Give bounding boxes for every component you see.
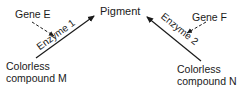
gene-f-label: Gene F	[192, 12, 227, 23]
compound-n-line2: compound N	[177, 76, 237, 87]
gene-e-label: Gene E	[15, 9, 51, 20]
pigment-label: Pigment	[100, 6, 140, 17]
compound-m-line2: compound M	[6, 73, 67, 84]
compound-n-line1: Colorless	[177, 64, 221, 75]
compound-m-line1: Colorless	[6, 61, 50, 72]
